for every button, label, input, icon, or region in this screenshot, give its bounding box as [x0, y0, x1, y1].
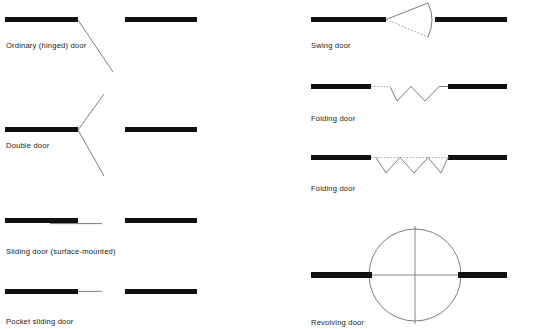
caption-revolving-door: Revolving door	[311, 318, 364, 328]
symbol-folding-door-1	[311, 84, 507, 101]
symbol-double-door	[5, 94, 197, 176]
caption-pocket-sliding-door: Pocket sliding door	[6, 317, 74, 327]
wall-segment-left	[311, 155, 371, 160]
wall-segment-right	[125, 127, 197, 132]
symbol-folding-door-2	[311, 155, 507, 173]
symbol-sliding-door-surface-mounted	[5, 218, 197, 224]
caption-sliding-door-surface-mounted: Sliding door (surface-mounted)	[6, 247, 116, 257]
caption-folding-door-1: Folding door	[311, 114, 355, 124]
wall-segment-right	[458, 272, 507, 278]
folding-panel-zigzag	[390, 87, 448, 102]
wall-segment-left	[5, 17, 78, 22]
wall-segment-right	[125, 289, 197, 294]
wall-segment-left	[5, 127, 78, 132]
swing-leaf-open-line	[386, 3, 428, 20]
caption-double-door: Double door	[6, 141, 49, 151]
wall-segment-left	[311, 84, 371, 89]
caption-swing-door: Swing door	[311, 41, 351, 51]
wall-segment-right	[435, 17, 507, 22]
wall-segment-left	[5, 218, 78, 223]
wall-segment-right	[125, 17, 197, 22]
wall-segment-right	[125, 218, 197, 223]
door-symbols-diagram: Ordinary (hinged) door Double door Slidi…	[0, 0, 539, 329]
symbol-revolving-door	[311, 226, 507, 324]
wall-segment-right	[448, 84, 507, 89]
swing-leaf-dotted-line	[386, 20, 428, 38]
wall-segment-left	[311, 17, 386, 22]
caption-ordinary-hinged-door: Ordinary (hinged) door	[6, 41, 86, 51]
swing-arc	[428, 3, 432, 37]
wall-segment-left	[311, 272, 372, 278]
symbol-swing-door	[311, 3, 507, 37]
door-leaf-line-upper	[78, 94, 104, 130]
wall-segment-left	[5, 289, 78, 294]
caption-folding-door-2: Folding door	[311, 184, 355, 194]
wall-segment-right	[448, 155, 507, 160]
symbol-pocket-sliding-door	[5, 289, 197, 294]
door-leaf-line-lower	[78, 130, 104, 176]
folding-panel-zigzag	[376, 158, 448, 174]
